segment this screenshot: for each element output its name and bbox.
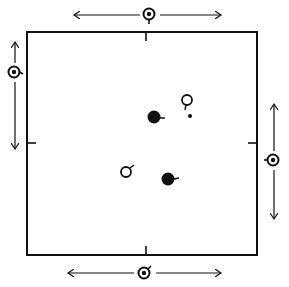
peripheral-marker-left xyxy=(9,42,24,149)
peripheral-marker-top xyxy=(74,9,221,25)
small-dot-icon xyxy=(188,114,192,118)
diagram-canvas xyxy=(0,0,289,287)
interior-symbols xyxy=(121,95,192,186)
filled-circle-lower-icon xyxy=(162,173,180,186)
arena-box xyxy=(27,32,257,255)
open-circle-upper-icon xyxy=(182,95,192,110)
peripheral-marker-right xyxy=(264,104,279,219)
filled-circle-upper-icon xyxy=(148,111,166,124)
peripheral-marker-bottom xyxy=(68,266,221,279)
edge-ticks xyxy=(27,32,257,255)
open-circle-lower-icon xyxy=(121,165,134,177)
